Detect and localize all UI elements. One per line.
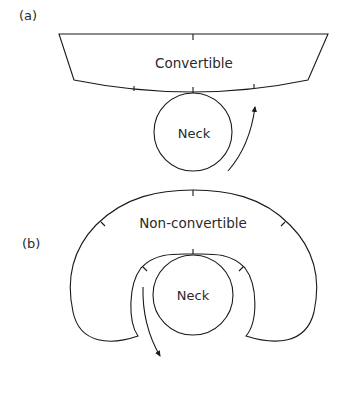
panel-a: (a) Convertible Neck xyxy=(19,8,328,171)
non-convertible-label: Non-convertible xyxy=(139,215,247,231)
neck-label-a: Neck xyxy=(178,126,211,141)
diagram-canvas: (a) Convertible Neck (b) Non-convertible… xyxy=(0,0,339,396)
panel-b-label: (b) xyxy=(22,236,40,251)
panel-b: (b) Non-convertible Neck xyxy=(22,190,317,356)
tick-inner-left xyxy=(143,267,147,271)
neck-label-b: Neck xyxy=(177,288,210,303)
arrow-down-icon xyxy=(143,287,160,356)
tick-outer-left xyxy=(101,222,105,226)
non-convertible-collar-shape xyxy=(70,190,316,341)
panel-a-label: (a) xyxy=(19,8,37,23)
arrow-up-icon xyxy=(228,107,255,171)
tick-outer-right xyxy=(281,222,285,226)
tick-inner-right xyxy=(239,267,243,271)
convertible-label: Convertible xyxy=(155,55,233,71)
